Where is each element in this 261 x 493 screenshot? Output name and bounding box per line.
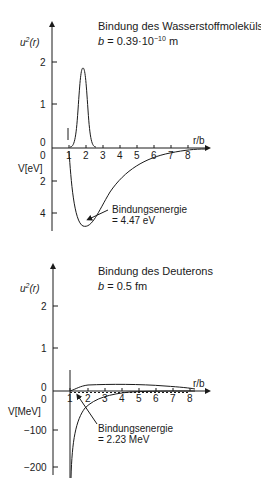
tick-label: 0 [41, 382, 47, 393]
tick-label: 2 [40, 57, 46, 68]
tick-label: 0 [40, 150, 46, 161]
x-label: r/b [193, 378, 205, 389]
svg-text:5: 5 [134, 150, 140, 161]
annotation-value: = 4.47 eV [112, 215, 155, 226]
svg-text:6: 6 [153, 393, 159, 404]
annotation-value: = 2.23 MeV [98, 434, 150, 445]
svg-text:3: 3 [100, 150, 106, 161]
tick-label: 4 [40, 208, 46, 219]
svg-text:5: 5 [136, 393, 142, 404]
deuteron-subtitle: b = 0.5 fm [98, 280, 147, 292]
svg-text:8: 8 [185, 150, 191, 161]
deuteron-title: Bindung des Deuterons [98, 265, 213, 277]
tick-label: 0 [41, 394, 47, 405]
wavefunction-curve [70, 384, 195, 391]
tick-label: 2 [40, 176, 46, 187]
x-tick-labels: 1 2 3 4 5 6 7 8 [67, 393, 193, 404]
annotation-label: Bindungsenergie [112, 204, 187, 215]
tick-label: −100 [24, 425, 47, 436]
svg-text:2: 2 [85, 393, 91, 404]
hydrogen-subtitle: b = 0.39·10−10 m [98, 35, 178, 47]
x-label: r/b [193, 135, 205, 146]
svg-text:3: 3 [102, 393, 108, 404]
y-label-upper: u2(r) [20, 282, 39, 294]
tick-label: 1 [40, 99, 46, 110]
x-tick-labels: 1 2 3 4 5 6 7 8 [66, 150, 191, 161]
wavefunction-curve [68, 68, 96, 147]
deuteron-chart: Bindung des Deuterons b = 0.5 fm u2(r) 2… [8, 265, 213, 478]
svg-text:8: 8 [187, 393, 193, 404]
annotation-label: Bindungsenergie [98, 423, 173, 434]
figure: Bindung des Wasserstoffmoleküls b = 0.39… [0, 0, 261, 493]
tick-label: −200 [24, 462, 47, 473]
hydrogen-title: Bindung des Wasserstoffmoleküls [98, 20, 261, 32]
y-label-lower: V[MeV] [8, 406, 41, 417]
svg-text:4: 4 [117, 150, 123, 161]
y-label-upper: u2(r) [20, 36, 39, 48]
tick-label: 0 [40, 137, 46, 148]
svg-text:2: 2 [83, 150, 89, 161]
svg-text:7: 7 [168, 150, 174, 161]
svg-text:7: 7 [170, 393, 176, 404]
tick-label: 2 [41, 301, 47, 312]
hydrogen-chart: Bindung des Wasserstoffmoleküls b = 0.39… [18, 20, 261, 231]
svg-text:4: 4 [119, 393, 125, 404]
y-label-lower: V[eV] [18, 163, 43, 174]
svg-text:6: 6 [151, 150, 157, 161]
tick-label: 1 [41, 343, 47, 354]
